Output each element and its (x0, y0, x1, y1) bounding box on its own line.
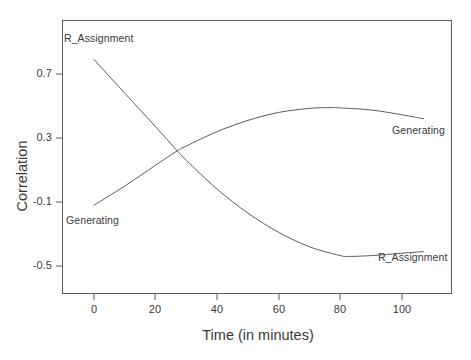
x-axis-title: Time (in minutes) (138, 327, 378, 343)
y-axis-ticks (56, 74, 62, 266)
series-line-generating (94, 108, 424, 206)
x-tick-label-4: 80 (320, 303, 360, 315)
correlation-line-chart: 0.7 0.3 -0.1 -0.5 0 20 40 60 80 100 Time… (0, 0, 471, 360)
x-axis-ticks (94, 294, 402, 300)
series-line-r-assignment (94, 60, 424, 257)
y-tick-label-0: 0.7 (12, 67, 52, 79)
x-tick-label-5: 100 (382, 303, 422, 315)
x-tick-label-1: 20 (135, 303, 175, 315)
x-tick-label-0: 0 (74, 303, 114, 315)
annotation-generating-start: Generating (66, 214, 119, 226)
annotation-generating-end: Generating (392, 124, 445, 136)
x-tick-label-3: 60 (259, 303, 299, 315)
annotation-r-assignment-end: R_Assignment (378, 251, 447, 263)
x-tick-label-2: 40 (197, 303, 237, 315)
annotation-r-assignment-start: R_Assignment (64, 32, 133, 44)
y-axis-title: Correlation (14, 111, 30, 241)
y-tick-label-3: -0.5 (12, 259, 52, 271)
